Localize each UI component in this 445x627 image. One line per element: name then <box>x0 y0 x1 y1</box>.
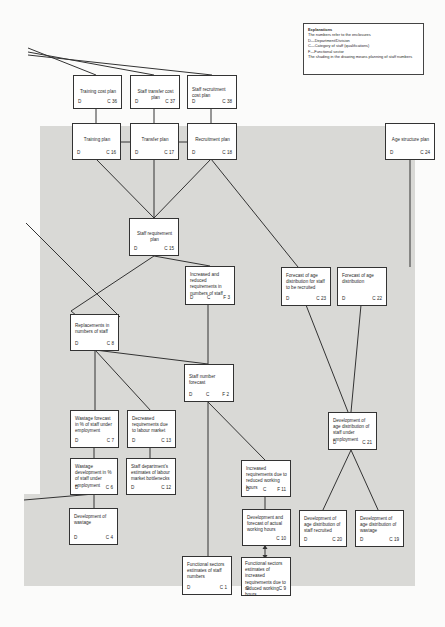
box-wastage-development: Wastage development in % of staff under … <box>70 458 118 495</box>
box-f-label: F 3 <box>223 295 230 301</box>
box-d-label: D <box>360 537 363 543</box>
box-title: Wastage forecast in % of staff under emp… <box>75 416 115 435</box>
box-c-label: C 12 <box>161 485 171 491</box>
box-c-label: C 15 <box>164 246 174 252</box>
box-development-age-under-employment: Development of age distribution of staff… <box>328 412 377 450</box>
box-c-label: C 1 <box>220 585 227 591</box>
box-c-label: C 8 <box>107 341 114 347</box>
box-c-label: C 23 <box>316 296 326 302</box>
box-d-label: D <box>190 295 193 301</box>
box-training-cost-plan: Training cost plan D C 36 <box>73 75 122 109</box>
box-title: Transfer plan <box>135 137 175 143</box>
box-c-label: C 18 <box>222 150 232 156</box>
box-training-plan: Training plan D C 16 <box>72 123 121 160</box>
box-c-label: C <box>207 295 210 301</box>
box-forecast-age-distribution: Forecast of age distribution D C 22 <box>337 267 387 306</box>
box-d-label: D <box>246 586 249 592</box>
box-staff-number-forecast: Staff number forecast D C F 2 <box>184 364 234 402</box>
box-f-label: F 11 <box>277 487 286 493</box>
legend-explanations: Explanations The numbers refer to the en… <box>303 23 424 75</box>
box-title: Increased and reduced requirements in nu… <box>190 272 231 297</box>
box-c-label: C 4 <box>106 535 113 541</box>
box-d-label: D <box>286 296 289 302</box>
box-decreased-requirements: Decreased requirements due to labour mar… <box>127 410 176 448</box>
box-functional-sectors-staff: Functional sectors estimates of staff nu… <box>182 556 232 595</box>
box-title: Functional sectors estimates of increase… <box>245 561 287 598</box>
box-d-label: D <box>75 485 78 491</box>
box-c-label: C 36 <box>107 99 117 105</box>
box-recruitment-plan: Recruitment plan D C 18 <box>187 123 237 160</box>
box-title: Staff department's estimates of labour m… <box>131 464 172 483</box>
box-d-label: D <box>131 485 134 491</box>
box-title: Development of age distribution of wasta… <box>360 516 400 535</box>
box-d-label: D <box>187 585 190 591</box>
box-age-structure-plan: Age structure plan D C 24 <box>385 123 435 160</box>
box-c-label: C 22 <box>372 296 382 302</box>
box-functional-sectors-increased: Functional sectors estimates of increase… <box>241 557 291 596</box>
box-c-label: C 19 <box>389 537 399 543</box>
box-forecast-age-recruited: Forecast of age distribution for staff t… <box>281 267 331 306</box>
box-c-label: C <box>263 487 266 493</box>
box-staff-recruitment-cost-plan: Staff recruitment cost plan D C 38 <box>187 75 237 109</box>
box-d-label: D <box>304 537 307 543</box>
box-d-label: D <box>78 99 81 105</box>
box-c-label: C 13 <box>161 438 171 444</box>
box-d-label: D <box>75 438 78 444</box>
box-development-age-wastage: Development of age distribution of wasta… <box>355 510 404 547</box>
box-title: Training cost plan <box>78 89 118 95</box>
box-wastage-forecast: Wastage forecast in % of staff under emp… <box>70 410 119 448</box>
box-staff-transfer-cost-plan: Staff transfer cost plan D C 37 <box>130 75 180 109</box>
box-c-label: C <box>206 392 209 398</box>
box-title: Recruitment plan <box>192 137 233 143</box>
box-c-label: C 24 <box>420 150 430 156</box>
box-title: Forecast of age distribution <box>342 273 383 285</box>
box-c-label: C 10 <box>276 536 286 542</box>
box-development-forecast-hours: Development and forecast of actual worki… <box>242 509 291 546</box>
box-staff-dept-estimates: Staff department's estimates of labour m… <box>126 458 176 495</box>
box-d-label: D <box>192 150 195 156</box>
box-f-label: F 2 <box>222 392 229 398</box>
box-c-label: C 37 <box>165 99 175 105</box>
box-c-label: C 21 <box>362 440 372 446</box>
box-title: Forecast of age distribution for staff t… <box>286 273 327 292</box>
box-development-age-recruited: Development of age distribution of staff… <box>299 510 347 547</box>
legend-line: The shading in the drawing means plannin… <box>308 54 419 59</box>
box-d-label: D <box>74 535 77 541</box>
box-d-label: D <box>75 341 78 347</box>
box-d-label: D <box>246 487 249 493</box>
box-c-label: C 9 <box>279 586 286 592</box>
box-title: Staff requirement plan <box>134 231 175 243</box>
box-transfer-plan: Transfer plan D C 17 <box>130 123 179 160</box>
box-title: Development of wastage <box>74 514 114 526</box>
box-increased-requirements-hours: Increased requirements due to reduced wo… <box>241 460 291 497</box>
box-c-label: C 16 <box>106 150 116 156</box>
box-title: Age structure plan <box>390 137 431 143</box>
box-d-label: D <box>134 246 137 252</box>
box-title: Decreased requirements due to labour mar… <box>132 416 172 435</box>
box-title: Development of age distribution of staff… <box>304 516 343 535</box>
box-title: Training plan <box>77 137 117 143</box>
box-d-label: D <box>333 440 336 446</box>
box-d-label: D <box>135 99 138 105</box>
box-title: Replacements in numbers of staff <box>75 323 115 335</box>
box-c-label: C 17 <box>164 150 174 156</box>
box-d-label: D <box>342 296 345 302</box>
box-title: Development and forecast of actual worki… <box>247 515 287 534</box>
box-increased-reduced-requirements: Increased and reduced requirements in nu… <box>185 266 235 305</box>
box-development-of-wastage: Development of wastage D C 4 <box>69 508 118 545</box>
box-c-label: C 38 <box>222 99 232 105</box>
box-d-label: D <box>189 392 192 398</box>
box-d-label: D <box>192 99 195 105</box>
box-d-label: D <box>390 150 393 156</box>
box-d-label: D <box>132 438 135 444</box>
box-d-label: D <box>77 150 80 156</box>
box-title: Functional sectors estimates of staff nu… <box>187 562 228 581</box>
box-c-label: C 20 <box>332 537 342 543</box>
box-title: Staff number forecast <box>189 374 230 386</box>
box-d-label: D <box>135 150 138 156</box>
box-c-label: C 7 <box>107 438 114 444</box>
box-replacements: Replacements in numbers of staff D C 8 <box>70 314 119 351</box>
box-c-label: C 6 <box>106 485 113 491</box>
box-staff-requirement-plan: Staff requirement plan D C 15 <box>129 218 179 256</box>
box-title: Staff recruitment cost plan <box>192 87 233 99</box>
